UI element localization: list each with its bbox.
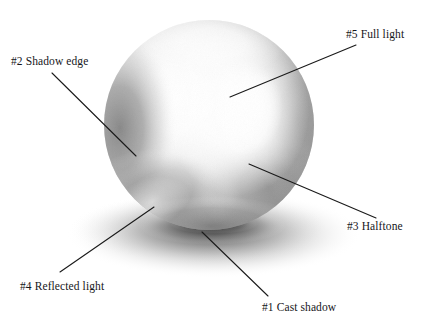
annotation-label-cast-shadow: #1 Cast shadow (262, 301, 336, 314)
sphere-shading-figure: #5 Full light #2 Shadow edge #3 Halftone… (0, 0, 428, 324)
sphere-illustration (0, 0, 428, 324)
annotation-label-halftone: #3 Halftone (347, 220, 403, 233)
annotation-label-shadow-edge: #2 Shadow edge (11, 55, 88, 68)
annotation-label-full-light: #5 Full light (346, 28, 404, 41)
sphere-grain (104, 20, 314, 230)
annotation-label-reflected-light: #4 Reflected light (20, 280, 104, 293)
